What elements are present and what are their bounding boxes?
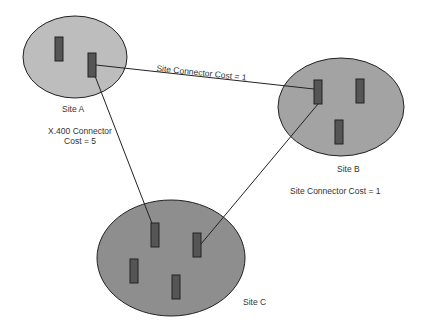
site-a-ellipse — [23, 16, 127, 98]
diagram-canvas — [0, 0, 424, 326]
server-icon — [88, 53, 96, 77]
server-icon — [172, 275, 180, 299]
site-b-label: Site B — [337, 164, 360, 174]
site-c-label: Site C — [243, 297, 266, 307]
connector-b-c — [201, 104, 318, 244]
server-icon — [55, 37, 63, 61]
connector-a-c — [95, 76, 153, 226]
server-icon — [314, 80, 322, 104]
connector-a-c-label-line1: X.400 Connector — [40, 126, 120, 136]
server-icon — [151, 223, 159, 247]
server-icon — [130, 259, 138, 283]
server-icon — [335, 120, 343, 144]
server-icon — [193, 233, 201, 257]
connector-a-c-label-line2: Cost = 5 — [40, 136, 120, 146]
connector-b-c-label: Site Connector Cost = 1 — [290, 186, 380, 196]
site-a-label: Site A — [62, 104, 84, 114]
connector-a-c-label: X.400 Connector Cost = 5 — [40, 126, 120, 146]
server-icon — [356, 79, 364, 103]
